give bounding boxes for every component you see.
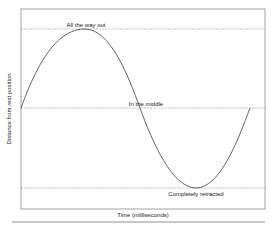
y-axis-label: Distance from rest position xyxy=(6,73,12,144)
label-in-the-middle: In the middle xyxy=(129,101,164,107)
chart-canvas: All the way out In the middle Completely… xyxy=(0,0,275,226)
label-all-the-way-out: All the way out xyxy=(66,22,105,28)
label-completely-retracted: Completely retracted xyxy=(168,191,223,197)
plot-frame xyxy=(21,9,265,209)
x-axis-label: Time (milliseconds) xyxy=(117,212,168,218)
bottom-divider xyxy=(12,221,265,223)
